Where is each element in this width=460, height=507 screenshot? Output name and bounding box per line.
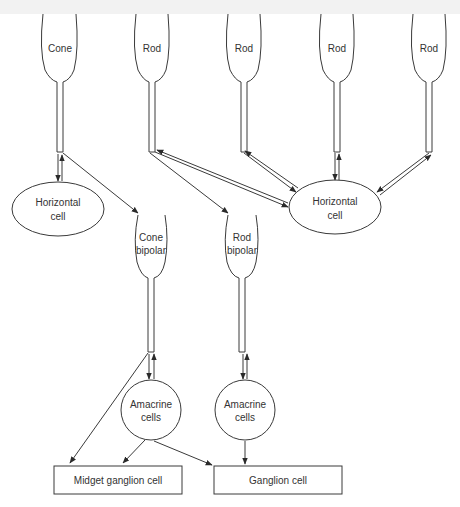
rod-bipolar-cell: Rod bipolar xyxy=(225,215,258,352)
horizontal-cell-left: Horizontal cell xyxy=(12,182,104,236)
horizontal-cell-right: Horizontal cell xyxy=(289,180,381,234)
amacrine-left-line2: cells xyxy=(141,412,161,423)
amacrine-right-line2: cells xyxy=(235,412,255,423)
horizontal-right-line2: cell xyxy=(327,210,342,221)
midget-ganglion-label: Midget ganglion cell xyxy=(74,475,162,486)
amacrine-left-line1: Amacrine xyxy=(130,399,173,410)
rod-photoreceptor-4: Rod xyxy=(411,14,446,152)
rod-label-2: Rod xyxy=(235,43,253,54)
rod-label-3: Rod xyxy=(328,43,346,54)
rod-photoreceptor-2: Rod xyxy=(226,14,261,152)
amacrine-cells-right: Amacrine cells xyxy=(215,380,275,440)
top-margin xyxy=(0,0,460,14)
retina-circuit-diagram: Cone Rod Rod Rod Rod Horizontal cell Hor… xyxy=(0,0,460,507)
amacrine-right-line1: Amacrine xyxy=(224,399,267,410)
ganglion-label: Ganglion cell xyxy=(249,475,307,486)
cone-photoreceptor: Cone xyxy=(41,14,77,152)
cone-label: Cone xyxy=(48,43,72,54)
rod-photoreceptor-3: Rod xyxy=(319,14,354,152)
rod-label-1: Rod xyxy=(143,43,161,54)
rod-bipolar-line2: bipolar xyxy=(227,245,258,256)
cone-bipolar-line1: Cone xyxy=(139,232,163,243)
amacrine-cells-left: Amacrine cells xyxy=(121,380,181,440)
horizontal-right-line1: Horizontal xyxy=(312,196,357,207)
cone-bipolar-line2: bipolar xyxy=(136,245,167,256)
horizontal-left-line2: cell xyxy=(50,211,65,222)
horizontal-left-line1: Horizontal xyxy=(35,197,80,208)
rod-photoreceptor-1: Rod xyxy=(134,14,169,152)
rod-bipolar-line1: Rod xyxy=(233,232,251,243)
midget-ganglion-cell: Midget ganglion cell xyxy=(54,466,182,494)
cone-bipolar-cell: Cone bipolar xyxy=(135,215,167,352)
ganglion-cell: Ganglion cell xyxy=(214,466,342,494)
rod-label-4: Rod xyxy=(420,43,438,54)
